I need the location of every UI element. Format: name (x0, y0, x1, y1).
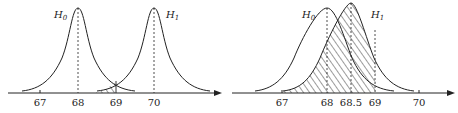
h1-label: H1 (165, 9, 179, 22)
h0-label: H0 (301, 9, 316, 22)
h0-label: H0 (53, 9, 68, 22)
tick-label: 70 (148, 97, 161, 108)
hypothesis-diagram: 67 68 69 70 H0 H1 67 68 68.5 69 70 H0 H1 (0, 0, 458, 113)
h0-curve (22, 8, 135, 91)
right-panel: 67 68 68.5 69 70 H0 H1 (232, 3, 455, 108)
h1-label: H1 (370, 9, 384, 22)
tick-label: 68.5 (340, 97, 362, 108)
axis-arrow-icon (214, 90, 222, 96)
tick-label: 69 (110, 97, 123, 108)
tick-label: 67 (276, 97, 289, 108)
tick-label: 68 (321, 97, 334, 108)
tick-label: 67 (34, 97, 47, 108)
axis-arrow-icon (447, 90, 455, 96)
tick-label: 68 (72, 97, 85, 108)
h1-curve (97, 8, 210, 91)
tick-label: 70 (413, 97, 426, 108)
left-panel: 67 68 69 70 H0 H1 (8, 8, 222, 108)
tick-label: 69 (369, 97, 382, 108)
